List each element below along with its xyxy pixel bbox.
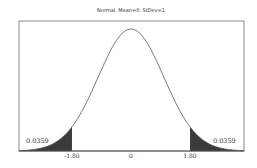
left-tail-probability: 0.0359 <box>26 137 49 145</box>
normal-distribution-chart: Normal, Mean=0, StDev=1 0.0359 0.0359 -1… <box>0 0 257 168</box>
plot-frame <box>19 21 244 151</box>
right-tail-probability: 0.0359 <box>213 137 236 145</box>
x-tick-center: 0 <box>129 152 133 159</box>
chart-title: Normal, Mean=0, StDev=1 <box>97 7 165 13</box>
x-tick-right: 1.80 <box>183 152 197 159</box>
x-tick-left: -1.80 <box>64 152 80 159</box>
